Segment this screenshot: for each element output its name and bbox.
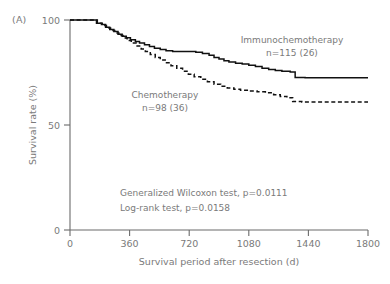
x-tick-label-0: 0 xyxy=(67,238,73,249)
y-axis-title: Survival rate (%) xyxy=(27,85,38,165)
chemotherapy-label: Chemotherapy xyxy=(132,90,199,100)
x-axis-title: Survival period after resection (d) xyxy=(139,256,299,267)
logrank-test-result: Log-rank test, p=0.0158 xyxy=(120,203,230,213)
survival-curve-figure: (A) 100 50 0 0 360 720 1080 1440 1800 xyxy=(0,0,390,284)
y-tick-label-0: 0 xyxy=(54,225,60,236)
y-tick-label-100: 100 xyxy=(42,15,60,26)
wilcoxon-test-result: Generalized Wilcoxon test, p=0.0111 xyxy=(120,188,288,198)
immunochemotherapy-label: Immunochemotherapy xyxy=(241,35,344,45)
survival-curve-immunochemotherapy xyxy=(70,20,368,78)
x-tick-label-360: 360 xyxy=(121,238,139,249)
x-tick-label-1080: 1080 xyxy=(237,238,261,249)
x-tick-label-720: 720 xyxy=(180,238,198,249)
immunochemotherapy-count: n=115 (26) xyxy=(266,48,318,58)
y-tick-label-50: 50 xyxy=(48,120,60,131)
kaplan-meier-plot: 100 50 0 0 360 720 1080 1440 1800 Surviv… xyxy=(0,0,390,284)
x-tick-label-1440: 1440 xyxy=(296,238,320,249)
x-tick-label-1800: 1800 xyxy=(356,238,380,249)
chemotherapy-count: n=98 (36) xyxy=(142,103,188,113)
